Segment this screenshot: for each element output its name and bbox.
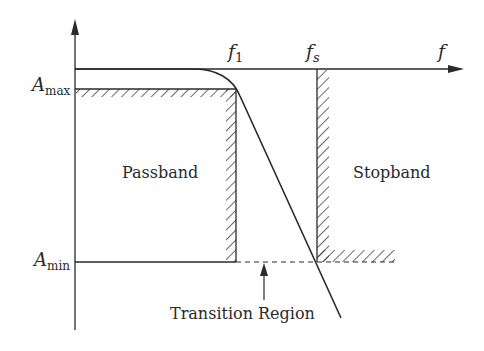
a-min-label: Amin xyxy=(34,249,70,270)
up-arrow-icon xyxy=(260,263,268,276)
filter-response-curve xyxy=(75,69,341,318)
x-axis-arrow-icon xyxy=(448,65,464,73)
y-axis xyxy=(71,19,79,330)
transition-region-label: Transition Region xyxy=(170,304,315,323)
fs-label: fs xyxy=(306,40,320,62)
y-axis-arrow-icon xyxy=(71,19,79,35)
stopband-label: Stopband xyxy=(353,163,431,182)
a-max-label: Amax xyxy=(32,74,70,95)
transition-region-arrow xyxy=(260,263,268,300)
f1-label: f1 xyxy=(228,40,243,62)
filter-spec-diagram: f1 fs f Amax Amin Passband Stopband Tran… xyxy=(0,0,484,351)
f-axis-label: f xyxy=(438,40,445,62)
passband-label: Passband xyxy=(122,163,198,182)
